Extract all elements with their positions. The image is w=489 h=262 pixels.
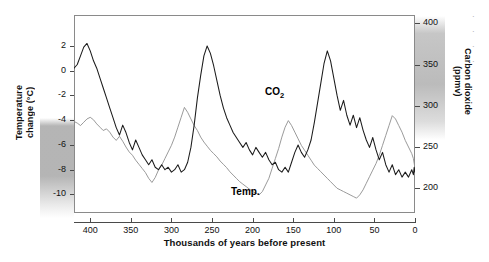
ice-core-figure: CO2 Temp. Temperature change (°C) Carbon…	[0, 0, 489, 262]
edge-fragment: ·	[472, 27, 475, 36]
right-tick-mark	[415, 106, 420, 107]
left-tick-mark	[70, 71, 74, 72]
x-tick-mark	[90, 218, 91, 223]
x-tick-label: 250	[194, 225, 230, 235]
right-tick-mark	[415, 188, 420, 189]
x-tick-label: 0	[397, 225, 433, 235]
right-tick-label: 300	[423, 100, 453, 110]
edge-fragment: ·	[472, 57, 475, 66]
x-tick-mark	[253, 218, 254, 223]
left-tick-mark	[70, 170, 74, 171]
x-tick-mark	[334, 218, 335, 223]
x-tick-label: 400	[72, 225, 108, 235]
right-tick-label: 250	[423, 141, 453, 151]
right-tick-label: 350	[423, 59, 453, 69]
right-tick-label: 400	[423, 17, 453, 27]
right-tick-mark	[415, 65, 420, 66]
left-tick-mark	[70, 46, 74, 47]
right-tick-mark	[415, 23, 420, 24]
left-tick-mark	[70, 194, 74, 195]
x-tick-mark	[212, 218, 213, 223]
x-tick-mark	[415, 218, 416, 223]
x-tick-label: 50	[356, 225, 392, 235]
left-axis-title: Temperature change (°C)	[14, 85, 38, 140]
x-tick-mark	[171, 218, 172, 223]
left-tick-mark	[70, 145, 74, 146]
left-tick-label: -2	[40, 89, 66, 99]
left-tick-label: 2	[40, 40, 66, 50]
cropped-edge-text: ····	[470, 8, 489, 68]
x-tick-label: 200	[235, 225, 271, 235]
left-tick-mark	[70, 120, 74, 121]
plot-area	[74, 15, 415, 213]
left-tick-label: -8	[40, 164, 66, 174]
co2-series-label: CO2	[265, 86, 284, 100]
x-tick-label: 350	[113, 225, 149, 235]
x-axis-line	[74, 222, 415, 223]
left-tick-label: 0	[40, 65, 66, 75]
right-gradient-band	[415, 16, 445, 140]
temperature-series	[74, 43, 415, 177]
x-tick-mark	[131, 218, 132, 223]
right-tick-label: 200	[423, 182, 453, 192]
x-tick-label: 150	[275, 225, 311, 235]
co2-label-subscript: 2	[280, 91, 284, 100]
left-tick-label: -10	[40, 188, 66, 198]
temp-series-label: Temp.	[231, 186, 260, 197]
co2-series	[74, 107, 415, 198]
x-axis-title: Thousands of years before present	[74, 238, 415, 249]
left-tick-label: -4	[40, 114, 66, 124]
left-tick-label: -6	[40, 139, 66, 149]
co2-label-text: CO	[265, 86, 280, 97]
edge-fragment: ·	[472, 42, 475, 51]
edge-fragment: ·	[472, 12, 475, 21]
x-tick-mark	[374, 218, 375, 223]
x-tick-label: 300	[153, 225, 189, 235]
x-tick-label: 100	[316, 225, 352, 235]
x-tick-mark	[293, 218, 294, 223]
left-tick-mark	[70, 95, 74, 96]
right-tick-mark	[415, 147, 420, 148]
